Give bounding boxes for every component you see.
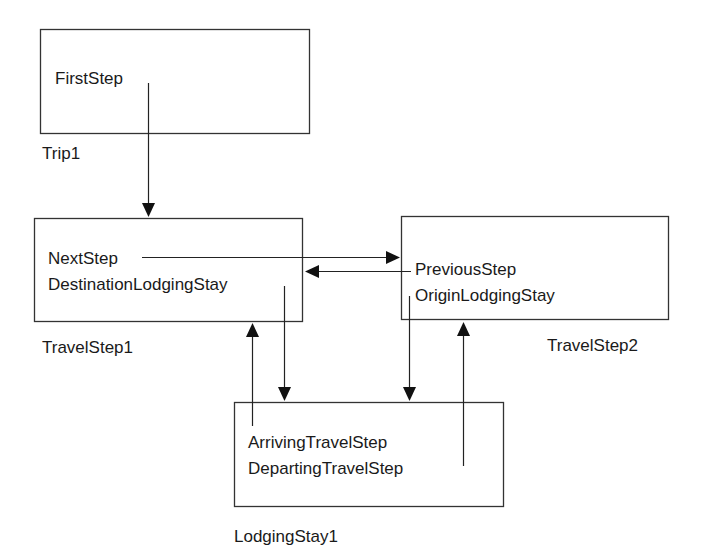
arrow-down-icon: [403, 387, 416, 401]
node-label-travelstep2: TravelStep2: [547, 336, 638, 355]
node-trip1: FirstStep Trip1: [41, 30, 310, 164]
field-previous-step: PreviousStep: [415, 260, 516, 279]
object-diagram: FirstStep Trip1 NextStep DestinationLodg…: [0, 0, 704, 557]
field-first-step: FirstStep: [55, 69, 123, 88]
arrow-down-icon: [142, 203, 155, 217]
arrow-down-icon: [278, 387, 291, 401]
edge-previous-step: [305, 265, 411, 278]
travelstep1-box: [35, 219, 303, 322]
node-label-trip1: Trip1: [42, 144, 80, 163]
field-departing-travel-step: DepartingTravelStep: [248, 459, 403, 478]
arrow-left-icon: [305, 265, 319, 278]
field-next-step: NextStep: [48, 249, 118, 268]
arrow-up-icon: [457, 322, 470, 336]
arrow-right-icon: [386, 251, 400, 264]
node-label-travelstep1: TravelStep1: [42, 338, 133, 357]
arrow-up-icon: [246, 323, 259, 337]
field-origin-lodging-stay: OriginLodgingStay: [415, 286, 555, 305]
node-travelstep1: NextStep DestinationLodgingStay TravelSt…: [35, 219, 303, 358]
node-label-lodgingstay1: LodgingStay1: [234, 527, 338, 546]
node-travelstep2: PreviousStep OriginLodgingStay TravelSte…: [402, 217, 669, 356]
field-arriving-travel-step: ArrivingTravelStep: [248, 433, 387, 452]
field-destination-lodging-stay: DestinationLodgingStay: [48, 275, 228, 294]
